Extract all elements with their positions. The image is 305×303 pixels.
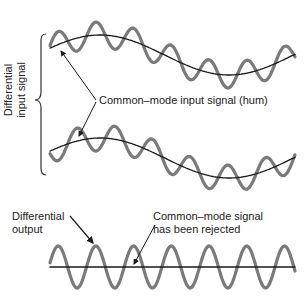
arrow-diff-output — [70, 216, 93, 243]
label-line: Differential — [12, 210, 64, 223]
input-signal-a — [50, 22, 295, 88]
arrow-rejected — [134, 225, 155, 264]
label-line: Common–mode signal — [153, 210, 263, 223]
differential-output-label: Differential output — [12, 210, 64, 236]
rejected-label: Common–mode signal has been rejected — [153, 210, 263, 236]
label-line: output — [12, 223, 64, 236]
hum-a — [50, 35, 295, 75]
input-signal-b — [50, 126, 295, 189]
label-line: has been rejected — [153, 223, 263, 236]
arrow-hum-bottom — [79, 102, 96, 136]
brace — [35, 34, 46, 175]
common-mode-input-label: Common–mode input signal (hum) — [99, 94, 268, 107]
arrow-hum-top — [61, 51, 96, 100]
differential-input-label: Differential input signal — [2, 30, 28, 150]
diagram-canvas — [0, 0, 305, 303]
label-line: Differential — [2, 30, 15, 150]
label-line: input signal — [15, 30, 28, 150]
